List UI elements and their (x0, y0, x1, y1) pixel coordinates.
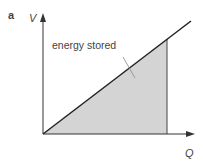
x-axis-label: Q (185, 147, 194, 159)
y-axis-arrow-icon (40, 13, 46, 22)
energy-stored-annotation: energy stored (52, 39, 116, 51)
v-q-graph: a V Q energy stored (0, 0, 204, 162)
x-axis-arrow-icon (186, 131, 195, 137)
panel-label: a (8, 9, 15, 21)
y-axis-label: V (29, 12, 38, 24)
